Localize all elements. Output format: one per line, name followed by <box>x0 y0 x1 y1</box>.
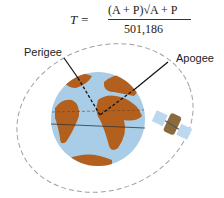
perigee-label: Perigee <box>24 46 62 58</box>
satellite-icon <box>150 107 195 142</box>
apogee-label: Apogee <box>176 52 214 64</box>
apogee-line <box>135 62 168 89</box>
perigee-line <box>64 58 78 78</box>
orbit-diagram <box>0 0 224 198</box>
earth-globe-icon <box>51 72 145 170</box>
